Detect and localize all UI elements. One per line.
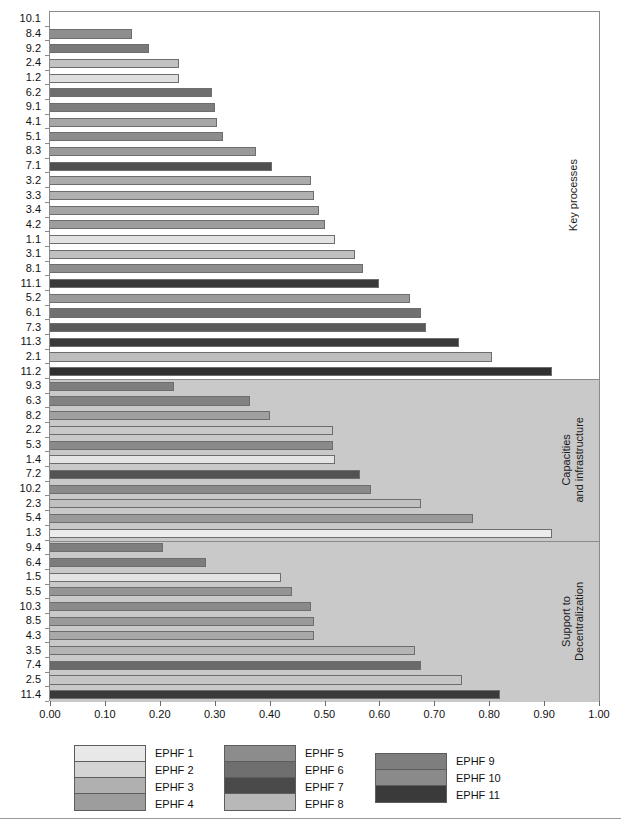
legend-swatch-ephf-1[interactable]	[75, 746, 145, 762]
bar-1.4[interactable]	[50, 455, 335, 464]
bar-4.1[interactable]	[50, 118, 217, 127]
bar-8.5[interactable]	[50, 617, 314, 626]
bar-row[interactable]	[50, 529, 599, 538]
bar-row[interactable]	[50, 176, 599, 185]
bar-row[interactable]	[50, 323, 599, 332]
bar-row[interactable]	[50, 396, 599, 405]
bar-10.3[interactable]	[50, 602, 311, 611]
bar-row[interactable]	[50, 338, 599, 347]
bar-9.4[interactable]	[50, 543, 163, 552]
bar-row[interactable]	[50, 426, 599, 435]
legend-swatch-ephf-9[interactable]	[376, 754, 446, 770]
bar-11.2[interactable]	[50, 367, 552, 376]
legend-swatch-ephf-10[interactable]	[376, 770, 446, 786]
bar-4.2[interactable]	[50, 220, 325, 229]
bar-row[interactable]	[50, 587, 599, 596]
bar-row[interactable]	[50, 15, 599, 24]
bar-10.2[interactable]	[50, 485, 371, 494]
bar-11.1[interactable]	[50, 279, 379, 288]
bar-2.5[interactable]	[50, 675, 462, 684]
bar-row[interactable]	[50, 382, 599, 391]
bar-1.3[interactable]	[50, 529, 552, 538]
bar-row[interactable]	[50, 264, 599, 273]
bar-3.1[interactable]	[50, 250, 355, 259]
bar-7.2[interactable]	[50, 470, 360, 479]
legend-swatch-ephf-6[interactable]	[225, 762, 295, 778]
bar-3.3[interactable]	[50, 191, 314, 200]
bar-2.2[interactable]	[50, 426, 333, 435]
bar-8.2[interactable]	[50, 411, 270, 420]
bar-9.2[interactable]	[50, 44, 149, 53]
bar-3.2[interactable]	[50, 176, 311, 185]
legend-swatch-ephf-2[interactable]	[75, 762, 145, 778]
bar-row[interactable]	[50, 675, 599, 684]
bar-row[interactable]	[50, 162, 599, 171]
bar-row[interactable]	[50, 235, 599, 244]
bar-row[interactable]	[50, 631, 599, 640]
bar-2.3[interactable]	[50, 499, 421, 508]
bar-7.4[interactable]	[50, 661, 421, 670]
bar-9.3[interactable]	[50, 382, 174, 391]
bar-row[interactable]	[50, 661, 599, 670]
bar-7.1[interactable]	[50, 162, 272, 171]
bar-row[interactable]	[50, 132, 599, 141]
bar-row[interactable]	[50, 294, 599, 303]
bar-7.3[interactable]	[50, 323, 426, 332]
bar-5.1[interactable]	[50, 132, 223, 141]
bar-row[interactable]	[50, 44, 599, 53]
legend-swatch-ephf-5[interactable]	[225, 746, 295, 762]
bar-3.4[interactable]	[50, 206, 319, 215]
bar-row[interactable]	[50, 543, 599, 552]
bar-row[interactable]	[50, 558, 599, 567]
bar-9.1[interactable]	[50, 103, 215, 112]
bar-1.5[interactable]	[50, 573, 281, 582]
bar-row[interactable]	[50, 411, 599, 420]
bar-1.1[interactable]	[50, 235, 335, 244]
bar-row[interactable]	[50, 147, 599, 156]
bar-8.3[interactable]	[50, 147, 256, 156]
bar-row[interactable]	[50, 250, 599, 259]
legend-swatch-ephf-4[interactable]	[75, 794, 145, 810]
bar-row[interactable]	[50, 441, 599, 450]
bar-row[interactable]	[50, 499, 599, 508]
bar-row[interactable]	[50, 690, 599, 699]
bar-8.4[interactable]	[50, 29, 132, 38]
bar-1.2[interactable]	[50, 74, 179, 83]
bar-4.3[interactable]	[50, 631, 314, 640]
bar-row[interactable]	[50, 352, 599, 361]
bar-row[interactable]	[50, 59, 599, 68]
bar-row[interactable]	[50, 573, 599, 582]
bar-row[interactable]	[50, 602, 599, 611]
bar-row[interactable]	[50, 118, 599, 127]
bar-row[interactable]	[50, 191, 599, 200]
legend-swatch-ephf-8[interactable]	[225, 794, 295, 810]
bar-5.5[interactable]	[50, 587, 292, 596]
bar-6.2[interactable]	[50, 88, 212, 97]
bar-row[interactable]	[50, 88, 599, 97]
bar-row[interactable]	[50, 29, 599, 38]
bar-row[interactable]	[50, 646, 599, 655]
bar-row[interactable]	[50, 367, 599, 376]
bar-5.2[interactable]	[50, 294, 410, 303]
bar-row[interactable]	[50, 617, 599, 626]
bar-row[interactable]	[50, 220, 599, 229]
bar-5.4[interactable]	[50, 514, 473, 523]
bar-2.1[interactable]	[50, 352, 492, 361]
bar-row[interactable]	[50, 206, 599, 215]
bar-row[interactable]	[50, 74, 599, 83]
bar-8.1[interactable]	[50, 264, 363, 273]
bar-6.1[interactable]	[50, 308, 421, 317]
bar-row[interactable]	[50, 514, 599, 523]
bar-11.3[interactable]	[50, 338, 459, 347]
bar-row[interactable]	[50, 455, 599, 464]
bar-row[interactable]	[50, 308, 599, 317]
bar-11.4[interactable]	[50, 690, 500, 699]
bar-6.3[interactable]	[50, 396, 250, 405]
legend-swatch-ephf-7[interactable]	[225, 778, 295, 794]
bar-row[interactable]	[50, 485, 599, 494]
bar-2.4[interactable]	[50, 59, 179, 68]
bar-3.5[interactable]	[50, 646, 415, 655]
bar-row[interactable]	[50, 103, 599, 112]
bar-row[interactable]	[50, 470, 599, 479]
legend-swatch-ephf-3[interactable]	[75, 778, 145, 794]
